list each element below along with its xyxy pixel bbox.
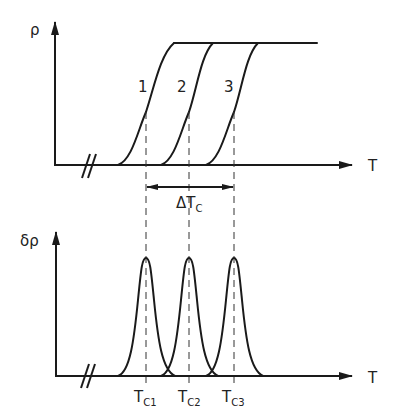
transition-curve-1: [118, 43, 174, 165]
transition-curve-3: [206, 43, 258, 165]
diagram-canvas: 1 2 3 ρ T ΔTC δρ T TC1 TC2: [0, 0, 394, 420]
curve-label-2: 2: [177, 78, 187, 96]
bottom-plot: δρ T TC1 TC2 TC3: [20, 232, 378, 408]
delta-tc-label: ΔTC: [176, 194, 202, 214]
tick-label-tc1: TC1: [133, 388, 157, 408]
top-plot: 1 2 3 ρ T: [30, 21, 378, 178]
delta-tc-indicator: ΔTC: [147, 187, 233, 214]
bottom-x-axis-label: T: [367, 369, 378, 387]
tick-label-tc3: TC3: [221, 388, 245, 408]
tick-label-tc2: TC2: [177, 388, 201, 408]
top-x-axis-label: T: [367, 157, 378, 175]
curve-label-1: 1: [138, 78, 148, 96]
bottom-y-axis-label: δρ: [20, 232, 39, 250]
curve-label-3: 3: [224, 78, 234, 96]
top-y-axis-label: ρ: [30, 21, 40, 39]
transition-curve-2: [161, 43, 213, 165]
